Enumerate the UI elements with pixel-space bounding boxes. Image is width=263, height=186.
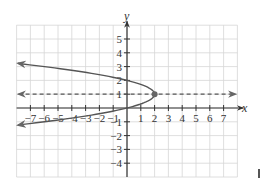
x-axis-label: x <box>241 101 248 115</box>
x-tick-label: −5 <box>52 112 64 124</box>
x-tick-label: 4 <box>179 112 185 124</box>
x-tick-label: 1 <box>138 112 144 124</box>
y-tick-label: −1 <box>110 116 122 128</box>
y-tick-label: 5 <box>117 33 123 45</box>
vertex-point <box>152 91 158 97</box>
axes <box>17 21 244 177</box>
cursor-mark <box>258 169 260 178</box>
tick-labels: −7−6−5−4−3−2−1123456754321−1−2−3−4 <box>25 33 227 169</box>
parabola-graph: −7−6−5−4−3−2−1123456754321−1−2−3−4 x y <box>0 0 263 186</box>
y-tick-label: 4 <box>117 47 123 59</box>
x-tick-label: 6 <box>207 112 213 124</box>
y-tick-label: −2 <box>110 130 122 142</box>
y-tick-label: −4 <box>110 157 122 169</box>
y-tick-label: −3 <box>110 143 122 155</box>
x-tick-label: 3 <box>166 112 172 124</box>
y-axis-label: y <box>123 9 130 23</box>
x-tick-label: −7 <box>25 112 37 124</box>
y-tick-label: 2 <box>117 74 123 86</box>
x-tick-label: −3 <box>80 112 92 124</box>
y-tick-label: 3 <box>117 61 123 73</box>
x-tick-label: 7 <box>221 112 227 124</box>
x-tick-label: 2 <box>152 112 158 124</box>
x-tick-label: 5 <box>193 112 199 124</box>
